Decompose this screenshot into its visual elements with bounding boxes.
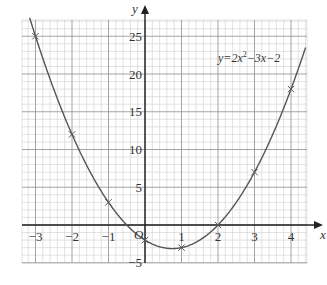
x-tick-label: −2: [65, 229, 79, 244]
x-tick-label: 2: [215, 229, 222, 244]
y-tick-label: 20: [129, 67, 142, 82]
x-tick-label: 1: [178, 229, 185, 244]
y-tick-label: −5: [128, 255, 142, 270]
y-tick-label: 10: [129, 142, 142, 157]
x-axis-label: x: [319, 227, 326, 242]
origin-label: O: [134, 227, 144, 242]
x-tick-label: −3: [29, 229, 43, 244]
y-tick-label: 5: [136, 180, 143, 195]
equation-prefix: y=2x: [217, 51, 243, 65]
x-tick-label: −1: [102, 229, 116, 244]
parabola-chart: x y O y=2x2−3x−2 −3−2−11234−5510152025: [0, 0, 327, 285]
y-axis-arrow-icon: [141, 5, 149, 14]
equation-suffix: −3x−2: [247, 51, 281, 65]
y-axis-label: y: [130, 1, 138, 16]
y-tick-label: 25: [129, 29, 142, 44]
x-tick-label: 3: [251, 229, 258, 244]
equation-label: y=2x2−3x−2: [217, 50, 280, 65]
x-tick-label: 4: [288, 229, 295, 244]
y-tick-label: 15: [129, 104, 142, 119]
